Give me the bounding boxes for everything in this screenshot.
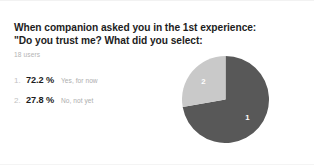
respondent-count: 18 users	[14, 51, 204, 58]
card-text-content: When companion asked you in the 1st expe…	[14, 22, 204, 115]
legend-list: 1. 72.2 % Yes, for now 2. 27.8 % No, not…	[14, 75, 204, 115]
pie-slice-1-label: 1	[245, 113, 250, 122]
legend-rank-1: 1.	[14, 76, 26, 85]
legend-label-1: Yes, for now	[61, 77, 98, 84]
legend-rank-2: 2.	[14, 96, 26, 105]
legend-label-2: No, not yet	[61, 97, 93, 104]
legend-percent-1: 72.2 %	[26, 75, 54, 85]
page-title-line-1: When companion asked you in the 1st expe…	[14, 22, 204, 35]
list-item: 1. 72.2 % Yes, for now	[14, 75, 204, 95]
poll-result-card: When companion asked you in the 1st expe…	[0, 0, 314, 165]
page-title-line-2: "Do you trust me? What did you select:	[14, 35, 204, 48]
pie-chart-svg: 1 2	[182, 56, 269, 143]
pie-slice-2-label: 2	[201, 77, 206, 86]
pie-chart: 1 2	[182, 56, 269, 143]
legend-percent-2: 27.8 %	[26, 95, 54, 105]
list-item: 2. 27.8 % No, not yet	[14, 95, 204, 115]
